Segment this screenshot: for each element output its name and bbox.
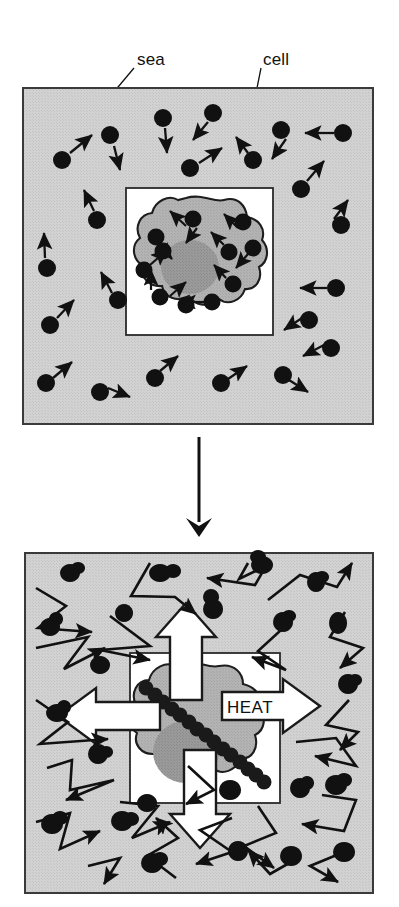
panel-cool-state: [23, 88, 373, 424]
cell-heat-diagram: HEAT: [0, 0, 399, 907]
label-cell: cell: [263, 50, 289, 70]
downward-transition-arrow: [186, 437, 212, 537]
panel-heated-state: HEAT: [25, 550, 373, 893]
heat-label: HEAT: [227, 698, 273, 717]
label-sea: sea: [137, 50, 165, 70]
